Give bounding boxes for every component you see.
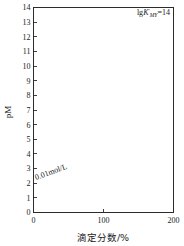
y-tick-label: 0 <box>27 208 31 217</box>
y-tick-label: 11 <box>23 47 31 56</box>
y-tick-label: 3 <box>27 164 31 173</box>
x-axis-ticks: 0100200 <box>32 209 180 225</box>
x-tick-label: 100 <box>98 216 110 225</box>
x-axis-title: 滴定分数/% <box>77 232 129 243</box>
y-tick-label: 7 <box>27 106 31 115</box>
x-tick-label: 200 <box>168 216 180 225</box>
y-tick-label: 10 <box>23 62 31 71</box>
chart-figure: 01234567891011121314 0100200 pM 滴定分数/% l… <box>0 0 184 246</box>
y-tick-label: 4 <box>27 150 31 159</box>
concentration-label: 0.01mol/L <box>34 162 69 182</box>
y-tick-label: 6 <box>27 121 31 130</box>
axis-titles: pM 滴定分数/% <box>3 106 129 243</box>
y-tick-label: 2 <box>27 179 31 188</box>
y-tick-label: 14 <box>23 3 31 12</box>
svg-text:lgK′MY=14: lgK′MY=14 <box>137 8 170 19</box>
y-tick-label: 13 <box>23 18 31 27</box>
plot-frame <box>34 8 174 213</box>
y-tick-label: 8 <box>27 91 31 100</box>
y-tick-label: 9 <box>27 77 31 86</box>
lgk-parameter-annotation: lgK′MY=14 <box>137 8 170 19</box>
y-tick-label: 5 <box>27 135 31 144</box>
y-axis-ticks: 01234567891011121314 <box>23 3 37 217</box>
x-tick-label: 0 <box>32 216 36 225</box>
y-tick-label: 1 <box>27 194 31 203</box>
concentration-annotation: 0.01mol/L <box>34 162 69 182</box>
y-axis-title: pM <box>3 106 13 119</box>
y-tick-label: 12 <box>23 33 31 42</box>
lgk-value: =14 <box>157 8 170 17</box>
titration-curve-plot: 01234567891011121314 0100200 pM 滴定分数/% l… <box>0 0 184 246</box>
